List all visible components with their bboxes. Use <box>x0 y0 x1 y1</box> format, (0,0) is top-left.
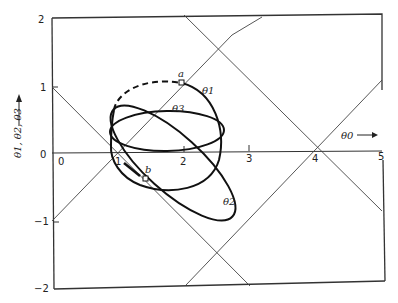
y-axis-label: θ1, θ2, θ3 <box>12 108 23 158</box>
x-tick-label: 1 <box>115 156 121 167</box>
y-tick-label: −1 <box>34 216 49 227</box>
label-theta2: θ2 <box>223 196 235 207</box>
y-tick-label: 1 <box>40 82 46 93</box>
x-axis-arrowhead-icon <box>372 132 378 138</box>
phase-plot: a b θ1 θ3 θ2 θ0 θ1, θ2, θ3 2 1 0 −1 −2 0… <box>0 0 398 303</box>
x-axis-label: θ0 <box>341 130 354 141</box>
y-axis-arrowhead-icon <box>16 94 22 102</box>
y-tick-label: 0 <box>40 149 46 160</box>
label-b: b <box>145 164 151 175</box>
point-a-marker <box>179 80 184 85</box>
x-tick-label: 5 <box>378 151 384 162</box>
curve-theta1 <box>111 82 221 191</box>
x-tick-label: 0 <box>58 156 64 167</box>
x-tick-label: 3 <box>246 153 252 164</box>
x-tick-label: 4 <box>312 153 318 164</box>
curve-theta3 <box>110 110 225 152</box>
frame-right-lower <box>383 160 385 281</box>
reference-lines <box>52 15 382 286</box>
y-tick-label: −2 <box>34 283 49 294</box>
arrow-segment <box>124 163 140 176</box>
frame-left <box>52 18 54 289</box>
y-tick-label: 2 <box>38 14 44 25</box>
label-theta3: θ3 <box>172 103 184 114</box>
plot-frame <box>52 14 382 90</box>
label-a: a <box>178 68 184 79</box>
point-b-marker <box>143 176 148 181</box>
label-theta1: θ1 <box>202 85 214 96</box>
x-tick-label: 2 <box>180 156 186 167</box>
frame-bottom <box>54 281 385 289</box>
x-axis <box>52 151 382 153</box>
